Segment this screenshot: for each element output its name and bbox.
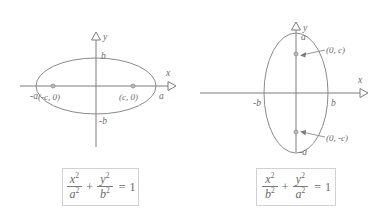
leader-arrowhead-upper xyxy=(300,52,306,58)
plus-operator: + xyxy=(86,181,93,193)
plus-operator: + xyxy=(282,181,289,193)
equation-horizontal-ellipse: x2 a2 + y2 b2 = 1 xyxy=(66,173,136,200)
equals-sign: = xyxy=(119,181,126,193)
numerator-x: x2 xyxy=(262,173,277,186)
panel-vertical-ellipse: x y -b b a -a (0, c) (0, -c) x2 b2 + xyxy=(192,0,385,219)
denominator-a: a2 xyxy=(67,186,83,200)
numerator-y: y2 xyxy=(293,173,308,186)
fraction-y-term: y2 a2 xyxy=(293,173,309,200)
fraction-x-term: x2 a2 xyxy=(67,173,83,200)
y-axis-arrowhead xyxy=(292,22,301,30)
numerator-x: x2 xyxy=(67,173,82,186)
x-axis-label: x xyxy=(357,75,363,85)
denominator-b: b2 xyxy=(262,186,278,200)
tick-label-x-negative: -b xyxy=(253,98,261,108)
tick-label-x-positive: a xyxy=(159,91,164,101)
y-axis-arrowhead xyxy=(92,32,101,40)
focus-label-lower: (0, -c) xyxy=(326,133,348,143)
denominator-a: a2 xyxy=(293,186,309,200)
panel-horizontal-ellipse: x y -a a b -b (-c, 0) (c, 0) x2 a2 + xyxy=(0,0,192,219)
numerator-y: y2 xyxy=(97,173,112,186)
right-hand-side: 1 xyxy=(325,181,331,193)
focus-label-upper: (0, c) xyxy=(326,45,345,55)
fraction-x-term: x2 b2 xyxy=(262,173,278,200)
x-axis-arrowhead xyxy=(168,82,176,91)
y-axis-label: y xyxy=(102,32,108,42)
tick-label-x-negative: -a xyxy=(30,91,38,101)
focus-point-lower xyxy=(294,130,298,134)
tick-label-y-positive: a xyxy=(301,32,306,42)
focus-point-left xyxy=(51,84,55,88)
tick-label-y-positive: b xyxy=(101,51,106,61)
focus-label-right: (c, 0) xyxy=(119,92,138,102)
x-axis-label: x xyxy=(165,68,171,78)
focus-label-left: (-c, 0) xyxy=(38,92,60,102)
tick-label-y-negative: -a xyxy=(299,147,307,157)
equation-vertical-ellipse: x2 b2 + y2 a2 = 1 xyxy=(261,173,331,200)
x-axis-arrowhead xyxy=(360,89,368,98)
focus-point-right xyxy=(131,84,135,88)
diagram-horizontal-ellipse: x y -a a b -b (-c, 0) (c, 0) xyxy=(0,0,192,160)
diagram-vertical-ellipse: x y -b b a -a (0, c) (0, -c) xyxy=(192,0,385,160)
focus-point-upper xyxy=(294,52,298,56)
equation-box-horizontal: x2 a2 + y2 b2 = 1 xyxy=(62,168,139,206)
tick-label-x-positive: b xyxy=(331,98,336,108)
denominator-b: b2 xyxy=(97,186,113,200)
ellipse-figure-pair: x y -a a b -b (-c, 0) (c, 0) x2 a2 + xyxy=(0,0,385,219)
equation-box-vertical: x2 b2 + y2 a2 = 1 xyxy=(256,168,336,206)
equals-sign: = xyxy=(314,181,321,193)
tick-label-y-negative: -b xyxy=(99,116,107,126)
leader-arrowhead-lower xyxy=(300,130,306,136)
right-hand-side: 1 xyxy=(130,181,136,193)
fraction-y-term: y2 b2 xyxy=(97,173,113,200)
